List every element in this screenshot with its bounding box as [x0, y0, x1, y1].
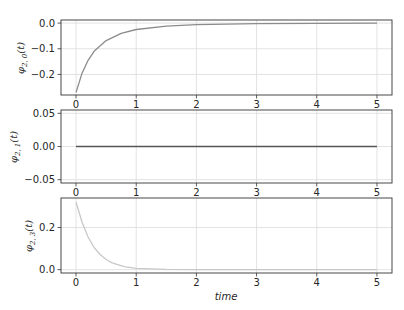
x-tick-label: 5	[374, 187, 380, 198]
x-tick-label: 3	[253, 99, 259, 110]
x-tick-label: 1	[133, 99, 139, 110]
x-tick-label: 4	[314, 277, 320, 288]
x-tick-label: 2	[193, 277, 199, 288]
ylabel-phi-2-3: φ2, 3(t)	[23, 220, 37, 252]
y-tick-label: −0.2	[31, 69, 55, 80]
x-tick-label: 3	[253, 187, 259, 198]
x-tick-label: 2	[193, 99, 199, 110]
x-tick-label: 0	[73, 187, 79, 198]
y-tick-label: 0.00	[33, 141, 55, 152]
ylabel-phi-2-1: φ2, 1(t)	[8, 131, 22, 163]
x-tick-label: 0	[73, 99, 79, 110]
y-tick-label: −0.1	[31, 43, 55, 54]
xlabel-time: time	[215, 291, 238, 302]
x-tick-label: 5	[374, 99, 380, 110]
plot-area	[61, 20, 392, 95]
y-tick-label: 0.0	[39, 264, 55, 275]
y-tick-label: 0.2	[39, 222, 55, 233]
x-tick-label: 4	[314, 99, 320, 110]
y-tick-label: 0.05	[33, 108, 55, 119]
x-tick-label: 1	[133, 277, 139, 288]
y-tick-label: 0.0	[39, 18, 55, 29]
ylabel-phi-2-0: φ2, 0(t)	[15, 42, 29, 74]
x-tick-label: 3	[253, 277, 259, 288]
y-tick-label: −0.05	[24, 174, 55, 185]
x-tick-label: 1	[133, 187, 139, 198]
subplot-phi-2-1: 0123450.050.00−0.05	[24, 108, 392, 198]
x-tick-label: 4	[314, 187, 320, 198]
figure: 0123450.0−0.1−0.2 0123450.050.00−0.05 01…	[0, 0, 404, 310]
x-tick-label: 5	[374, 277, 380, 288]
x-tick-label: 2	[193, 187, 199, 198]
subplot-phi-2-3: 0123450.20.0	[39, 198, 392, 288]
x-tick-label: 0	[73, 277, 79, 288]
subplot-phi-2-0: 0123450.0−0.1−0.2	[31, 18, 392, 110]
